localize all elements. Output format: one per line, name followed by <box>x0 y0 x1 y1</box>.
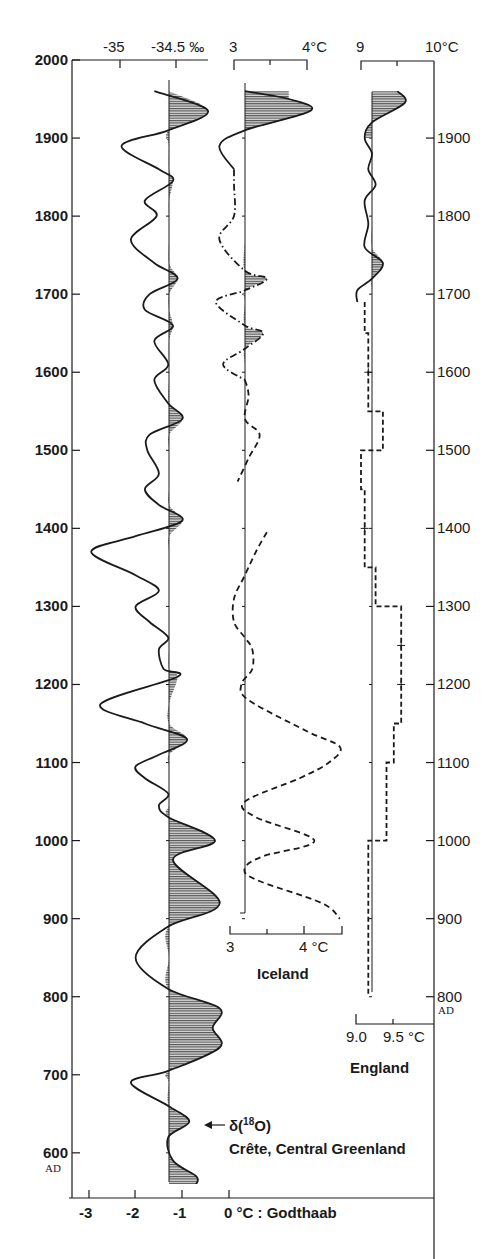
iceland-bottom-tick-4: 4 °C <box>299 938 329 955</box>
greenland-bottom-ticks <box>89 1190 229 1198</box>
greenland-top-tick-neg35: -35 <box>103 38 125 55</box>
greenland-annotation-arrow-icon <box>204 1121 212 1129</box>
year-tick-label-right: 1700 <box>437 285 470 302</box>
year-tick-label-right: 1600 <box>437 363 470 380</box>
england-bottom-tick-9: 9.0 <box>346 1028 367 1045</box>
greenland-annotation-location: Crête, Central Greenland <box>229 1140 406 1157</box>
year-tick-label: 1300 <box>35 597 68 614</box>
year-tick-label: 1000 <box>35 832 68 849</box>
england-series <box>356 91 406 997</box>
year-tick-label: 700 <box>43 1066 68 1083</box>
year-tick-label-right: 1400 <box>437 519 470 536</box>
greenland-annotation-delta: δ(18O) <box>229 1116 271 1134</box>
year-tick-label-right: 1300 <box>437 597 470 614</box>
england-bottom-tick-95: 9.5 °C <box>383 1028 425 1045</box>
england-data-marker <box>397 641 405 649</box>
greenland-bottom-tick-neg3: -3 <box>79 1204 92 1221</box>
climate-proxy-chart: 2000190018001700160015001400130012001100… <box>0 0 497 1259</box>
iceland-series <box>216 83 341 919</box>
year-tick-label: 800 <box>43 988 68 1005</box>
year-tick-label: 900 <box>43 910 68 927</box>
year-tick-label: 1800 <box>35 207 68 224</box>
year-tick-label: 1200 <box>35 675 68 692</box>
delta-prefix: δ( <box>229 1117 243 1134</box>
greenland-bottom-tick-neg2: -2 <box>126 1204 139 1221</box>
year-tick-label: 1900 <box>35 129 68 146</box>
england-top-tick-10: 10°C <box>425 38 459 55</box>
year-tick-label-right: 1900 <box>437 129 470 146</box>
england-top-tick-9: 9 <box>356 38 364 55</box>
iceland-top-axis <box>234 60 307 70</box>
england-data-marker <box>364 368 372 376</box>
year-tick-label: 600 <box>43 1144 68 1161</box>
england-top-axis <box>361 61 434 70</box>
year-tick-label-right: 1000 <box>437 832 470 849</box>
year-tick-label-right: 1100 <box>437 754 469 771</box>
year-tick-label-right: 900 <box>437 910 462 927</box>
delta-suffix: O) <box>254 1117 271 1134</box>
year-tick-label-right: 800 <box>437 988 462 1005</box>
greenland-bottom-tick-neg1: -1 <box>173 1204 186 1221</box>
year-tick-label: 1600 <box>35 363 68 380</box>
ad-label-right: AD <box>438 1004 454 1016</box>
year-tick-label-right: 1500 <box>437 441 470 458</box>
england-bottom-axis <box>356 1014 434 1024</box>
right-year-axis: 1900180017001600150014001300120011001000… <box>426 61 470 1259</box>
greenland-top-tick-neg345: -34.5 ‰ <box>151 38 204 55</box>
iceland-bottom-tick-3: 3 <box>226 938 234 955</box>
england-data-marker <box>397 680 405 688</box>
iceland-bottom-axis <box>230 926 342 934</box>
year-tick-label: 1700 <box>35 285 68 302</box>
ad-label-left: AD <box>45 1162 61 1174</box>
greenland-bottom-tick-0-godthaab: 0 °C : Godthaab <box>224 1204 337 1221</box>
year-tick-label: 1100 <box>35 754 68 771</box>
greenland-series <box>91 80 222 1184</box>
year-tick-label-right: 1200 <box>437 675 470 692</box>
year-tick-label: 1500 <box>35 441 68 458</box>
england-label: England <box>350 1059 409 1076</box>
year-tick-label: 2000 <box>35 51 68 68</box>
iceland-top-tick-3: 3 <box>229 38 237 55</box>
year-tick-label-right: 1800 <box>437 207 470 224</box>
iceland-label: Iceland <box>257 965 309 982</box>
iceland-top-tick-4: 4°C <box>302 38 327 55</box>
year-tick-label: 1400 <box>35 519 68 536</box>
delta-sup: 18 <box>243 1116 255 1127</box>
england-data-marker <box>361 524 369 532</box>
